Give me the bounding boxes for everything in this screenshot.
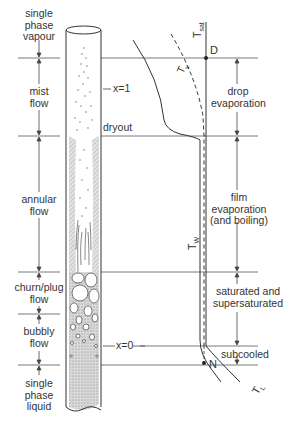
label-point-D: D bbox=[210, 45, 218, 57]
label-mist-flow: mist flow bbox=[17, 86, 61, 109]
marker-dryout: dryout bbox=[103, 122, 132, 134]
label-single-phase-vapour: single phase vapour bbox=[17, 8, 61, 43]
tube bbox=[66, 26, 101, 411]
label-t-w: TW bbox=[186, 237, 200, 250]
label-single-phase-liquid: single phase liquid bbox=[17, 378, 61, 413]
label-churn-plug-flow: churn/plug flow bbox=[11, 282, 67, 305]
label-saturated-supersaturated: saturated and supersaturated bbox=[211, 286, 285, 309]
marker-x1: x=1 bbox=[113, 83, 130, 95]
point-D bbox=[204, 56, 208, 60]
label-annular-flow: annular flow bbox=[15, 194, 63, 217]
marker-x0: x=0 bbox=[116, 340, 133, 352]
label-bubbly-flow: bubbly flow bbox=[17, 326, 61, 349]
label-point-N: N bbox=[209, 359, 217, 371]
label-film-evaporation: film evaporation (and boiling) bbox=[208, 192, 270, 227]
label-drop-evaporation: drop evaporation bbox=[211, 86, 265, 109]
label-t-sat: Tsat bbox=[191, 22, 205, 38]
label-subcooled: subcooled bbox=[220, 349, 270, 361]
